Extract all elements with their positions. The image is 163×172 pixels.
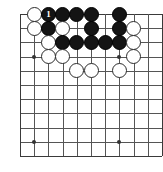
stone-black-c6r2[interactable] [84,21,99,36]
stone-black-c6r3[interactable] [84,35,99,50]
star-point-lower-right-icon [117,140,121,144]
board-col-line-11 [162,14,163,156]
star-point-left-icon [32,55,36,59]
stone-black-c3r2[interactable] [41,21,56,36]
stone-black-c6r1[interactable] [84,7,99,22]
stone-white-c4r2[interactable] [55,21,70,36]
stone-white-c3r3[interactable] [41,35,56,50]
stone-white-c6r5[interactable] [84,63,99,78]
stone-black-c4r3[interactable] [55,35,70,50]
stone-white-c9r2[interactable] [126,21,141,36]
stone-white-c2r2[interactable] [27,21,42,36]
stone-white-c3r4[interactable] [41,49,56,64]
go-board[interactable]: 1 [0,0,163,172]
stone-black-c8r1[interactable] [112,7,127,22]
go-diagram: 1 [0,0,163,172]
stone-black-c3r1[interactable]: 1 [41,7,56,22]
board-col-line-10 [148,14,149,156]
stone-black-c4r1[interactable] [55,7,70,22]
stone-move-number: 1 [42,8,55,21]
stone-white-c5r5[interactable] [69,63,84,78]
star-point-lower-left-icon [32,140,36,144]
stone-white-c8r5[interactable] [112,63,127,78]
star-point-upper-right-icon [117,55,121,59]
stone-white-c2r1[interactable] [27,7,42,22]
stone-white-c9r4[interactable] [126,49,141,64]
board-row-line-11 [20,156,162,157]
stone-black-c8r2[interactable] [112,21,127,36]
stone-black-c5r3[interactable] [69,35,84,50]
stone-black-c5r1[interactable] [69,7,84,22]
stone-black-c8r3[interactable] [112,35,127,50]
board-col-line-1 [20,14,21,156]
stone-black-c7r3[interactable] [98,35,113,50]
stone-white-c4r4[interactable] [55,49,70,64]
stone-white-c9r3[interactable] [126,35,141,50]
